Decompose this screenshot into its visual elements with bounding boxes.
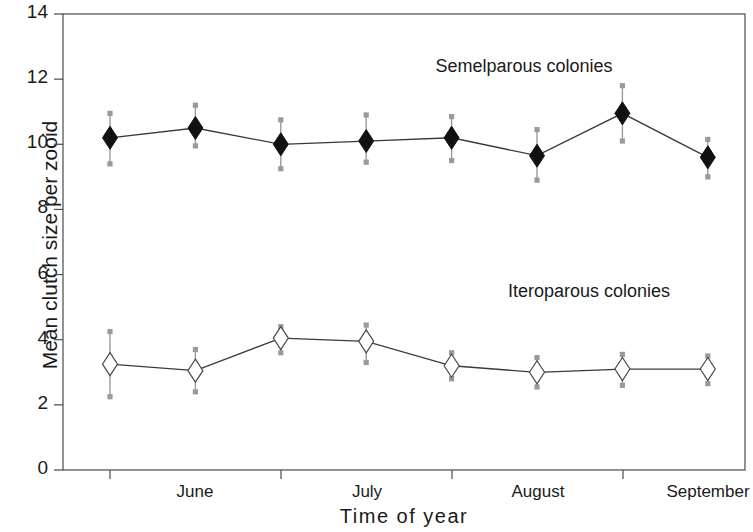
error-bar-cap-lower (364, 360, 369, 365)
error-bar-cap-lower (193, 389, 198, 394)
data-point-open-diamond (103, 353, 118, 376)
series-iteroparous (103, 322, 716, 399)
error-bar-cap-upper (193, 347, 198, 352)
error-bar-cap-upper (364, 322, 369, 327)
error-bar-cap-lower (193, 143, 198, 148)
error-bar-cap-upper (705, 137, 710, 142)
error-bar-cap-upper (534, 127, 539, 132)
error-bar-cap-upper (107, 111, 112, 116)
data-point-open-diamond (615, 358, 630, 381)
error-bar-cap-upper (620, 352, 625, 357)
data-point-filled-diamond (444, 126, 459, 149)
data-point-filled-diamond (103, 126, 118, 149)
error-bar-cap-upper (364, 112, 369, 117)
error-bar-cap-lower (364, 160, 369, 165)
error-bar-cap-lower (620, 138, 625, 143)
error-bar-cap-lower (620, 383, 625, 388)
data-point-open-diamond (700, 358, 715, 381)
data-point-open-diamond (530, 361, 545, 384)
data-point-filled-diamond (700, 146, 715, 169)
data-point-filled-diamond (530, 144, 545, 167)
error-bar-cap-upper (620, 83, 625, 88)
error-bar-cap-lower (107, 161, 112, 166)
data-point-open-diamond (444, 354, 459, 377)
error-bar-cap-lower (278, 350, 283, 355)
data-point-filled-diamond (273, 133, 288, 156)
error-bar-cap-lower (449, 158, 454, 163)
error-bar-cap-upper (193, 103, 198, 108)
error-bar-cap-lower (705, 174, 710, 179)
error-bar-cap-lower (534, 178, 539, 183)
error-bar-cap-lower (534, 384, 539, 389)
error-bar-cap-upper (278, 117, 283, 122)
error-bar-cap-lower (278, 166, 283, 171)
series-line (110, 113, 708, 157)
data-point-filled-diamond (359, 130, 374, 153)
error-bar-cap-upper (107, 329, 112, 334)
error-bar-cap-upper (449, 114, 454, 119)
error-bar-cap-lower (705, 381, 710, 386)
plot-frame (63, 14, 745, 470)
error-bar-cap-lower (107, 394, 112, 399)
data-point-filled-diamond (615, 102, 630, 125)
data-point-open-diamond (188, 359, 203, 382)
series-semelparous (103, 83, 716, 183)
plot-area (0, 0, 753, 532)
data-point-open-diamond (273, 327, 288, 350)
figure-container: Mean clutch size per zooid Time of year … (0, 0, 753, 532)
data-point-filled-diamond (188, 117, 203, 140)
error-bar-cap-upper (534, 355, 539, 360)
data-point-open-diamond (359, 330, 374, 353)
